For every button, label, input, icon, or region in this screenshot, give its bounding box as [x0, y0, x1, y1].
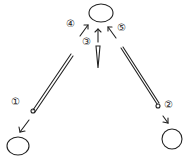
- arrow-1: [19, 120, 29, 132]
- arrow-2: [163, 116, 168, 123]
- right-bead: [162, 129, 182, 149]
- arrow-3: [95, 29, 101, 42]
- step-label-2: ②: [164, 99, 173, 110]
- arrow-4: [80, 25, 88, 36]
- needle-diagram: [0, 0, 183, 167]
- step-label-5: ⑤: [117, 22, 126, 33]
- step-label-1: ①: [11, 96, 20, 107]
- top-bead: [89, 4, 113, 22]
- center-needle: [96, 46, 100, 68]
- step-label-4: ④: [66, 18, 75, 29]
- arrow-5: [108, 27, 116, 38]
- step-label-3: ③: [82, 36, 91, 47]
- left-needle: [31, 54, 73, 113]
- left-bead: [7, 137, 29, 155]
- right-needle: [121, 47, 160, 108]
